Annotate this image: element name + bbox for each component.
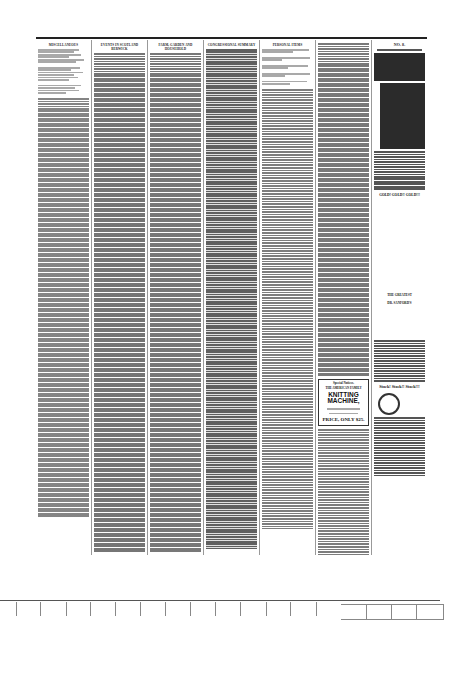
- column-1-text: [38, 49, 89, 98]
- column-7-text-3: [374, 417, 425, 477]
- greatest-ad: THE GREATEST: [374, 294, 425, 297]
- column-3-article: [150, 53, 201, 553]
- knitting-machine-ad: Special Notices. THE AMERICAN FAMILY KNI…: [318, 379, 369, 426]
- column-2-article: [94, 53, 145, 553]
- special-notices-label: Special Notices.: [320, 382, 367, 385]
- column-7-text-1: [374, 151, 425, 191]
- ad-line-2: KNITTING MACHINE,: [320, 392, 367, 406]
- stock-ad: Stock! Stock!! Stock!!!: [374, 385, 425, 389]
- column-7-text-2: [374, 340, 425, 382]
- column-4: Congressional Summary: [204, 40, 260, 555]
- column-4-heading: Congressional Summary: [206, 43, 257, 47]
- column-7-number: No. 8.: [374, 43, 425, 47]
- column-3-heading: Farm, Garden and Household: [150, 43, 201, 51]
- column-6-article: [318, 43, 369, 376]
- column-2: Events in Scotland Berwick: [92, 40, 148, 555]
- column-5-text: [262, 49, 313, 89]
- ad-price: PRICE, ONLY $25.: [320, 417, 367, 422]
- sanford-ad: DR. SANFORD'S: [374, 302, 425, 305]
- column-1: Miscellaneous: [36, 40, 92, 555]
- newspaper-columns: Miscellaneous Events in Scotland Berwick…: [36, 40, 427, 555]
- ad-block-1: [374, 53, 425, 81]
- column-5-heading: Personal Items: [262, 43, 313, 47]
- column-6-article-2: [318, 429, 369, 555]
- column-5-article: [262, 89, 313, 529]
- ad-block-2: [374, 83, 425, 149]
- page-top-rule: [36, 37, 427, 39]
- seal-icon: [378, 393, 400, 415]
- gold-ad: GOLD! GOLD!! GOLD!!!: [374, 194, 425, 198]
- column-2-heading: Events in Scotland Berwick: [94, 43, 145, 51]
- column-3: Farm, Garden and Household: [148, 40, 204, 555]
- scan-ruler: [0, 560, 468, 674]
- column-4-article: [206, 49, 257, 549]
- column-1-article: [38, 98, 89, 518]
- column-7-whitespace: [374, 201, 425, 291]
- column-7: No. 8. GOLD! GOLD!! GOLD!!! THE GREATEST…: [372, 40, 427, 555]
- column-1-heading: Miscellaneous: [38, 43, 89, 47]
- column-5: Personal Items: [260, 40, 316, 555]
- ruler-line: [0, 600, 440, 601]
- column-6: Special Notices. THE AMERICAN FAMILY KNI…: [316, 40, 372, 555]
